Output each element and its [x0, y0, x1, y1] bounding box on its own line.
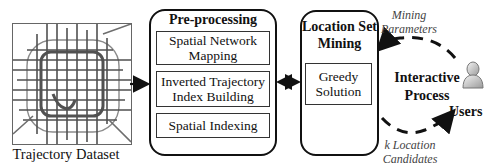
- step-label: Spatial Network: [169, 33, 257, 48]
- label-line: Parameters: [354, 22, 464, 36]
- label-line: Interactive: [386, 69, 468, 87]
- k-location-candidates-label: k Location Candidates: [355, 138, 465, 166]
- preprocessing-title: Pre-processing: [149, 12, 277, 28]
- user-icon: [461, 61, 485, 89]
- spatial-network-mapping-box: Spatial NetworkMapping: [156, 31, 270, 65]
- method-label: Solution: [316, 84, 362, 99]
- step-label: Index Building: [161, 89, 265, 104]
- method-label: Greedy: [316, 69, 362, 84]
- mining-parameters-arc: [380, 38, 455, 58]
- users-label: Users: [449, 104, 482, 120]
- title-line: Mining: [300, 35, 379, 52]
- greedy-solution-box: GreedySolution: [305, 63, 372, 105]
- label-line: k Location: [355, 138, 465, 152]
- interactive-process-label: Interactive Process: [386, 69, 468, 105]
- spatial-indexing-box: Spatial Indexing: [156, 113, 270, 138]
- step-label: Inverted Trajectory: [161, 74, 265, 89]
- label-line: Candidates: [355, 152, 465, 166]
- step-label: Mapping: [169, 48, 257, 63]
- label-line: Mining: [354, 8, 464, 22]
- step-label: Spatial Indexing: [169, 118, 258, 133]
- inverted-trajectory-index-box: Inverted TrajectoryIndex Building: [156, 71, 270, 107]
- candidates-arc: [382, 113, 452, 133]
- mining-parameters-label: Mining Parameters: [354, 8, 464, 36]
- label-line: Process: [386, 87, 468, 105]
